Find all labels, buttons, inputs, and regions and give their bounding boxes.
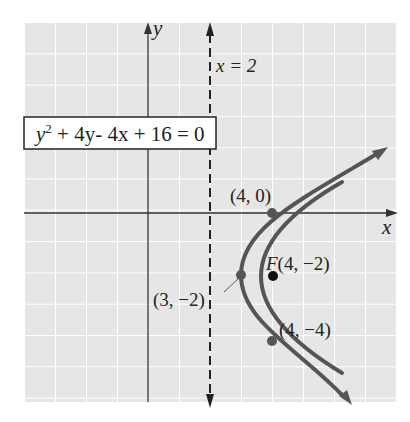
point-3-neg2 — [236, 270, 246, 280]
point-label-4-0: (4, 0) — [230, 185, 271, 207]
focus-label: F(4, −2) — [265, 253, 329, 275]
x-axis-label: x — [381, 215, 392, 239]
point-4-0 — [267, 208, 277, 218]
directrix-label: x = 2 — [215, 55, 257, 76]
y-axis-label: y — [151, 16, 163, 40]
equation-label: y2 + 4y- 4x + 16 = 0 — [34, 121, 205, 146]
point-label-3-neg2: (3, −2) — [153, 289, 205, 311]
point-label-4-neg4: (4, −4) — [279, 319, 331, 341]
point-4-neg4 — [267, 336, 277, 346]
parabola-diagram: y2 + 4y- 4x + 16 = 0 y x x = 2 (4, 0) (3… — [0, 0, 410, 422]
